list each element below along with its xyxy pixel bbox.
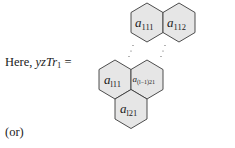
ellipsis-dots-right [160, 45, 165, 57]
or-text: (or) [5, 125, 24, 140]
hexagon-diagram: a111 a112 al11 a(l−1)21 al21 [0, 0, 235, 148]
hexagon-a112: a112 [163, 3, 195, 42]
ellipsis-dots-left [128, 45, 133, 57]
hexagon-a111: a111 [131, 3, 163, 42]
